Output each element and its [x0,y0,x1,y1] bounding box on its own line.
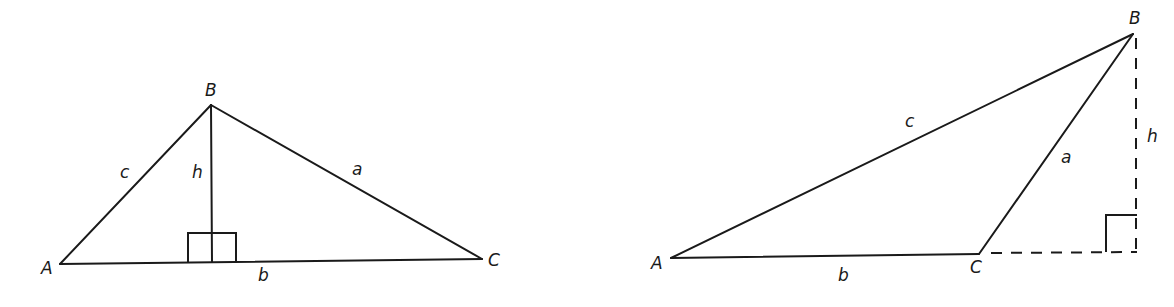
right-side-c-label: c [905,111,915,131]
right-side-a [979,34,1133,254]
left-altitude-h-label: h [192,162,203,182]
left-side-b [60,259,482,264]
right-altitude-h-label: h [1147,126,1158,146]
left-triangle: A B C c h a b [40,80,500,285]
left-side-a [211,105,482,259]
right-vertex-b-label: B [1129,8,1141,28]
right-side-c [671,34,1133,258]
left-side-b-label: b [258,265,269,285]
right-side-b-label: b [838,265,849,285]
right-right-angle-marker [1106,215,1137,252]
right-base-extension [991,252,1137,253]
left-altitude-h [211,105,212,262]
right-triangle: A B C c a h b [650,8,1158,285]
left-side-c-label: c [120,162,130,182]
left-side-a-label: a [352,159,362,179]
left-vertex-c-label: C [488,250,500,270]
left-vertex-b-label: B [205,80,217,100]
right-vertex-c-label: C [970,257,982,277]
right-side-b [671,254,979,258]
triangle-diagram: A B C c h a b A B C c a h b [0,0,1174,307]
right-side-a-label: a [1061,147,1071,167]
right-vertex-a-label: A [650,253,663,273]
left-vertex-a-label: A [40,258,53,278]
